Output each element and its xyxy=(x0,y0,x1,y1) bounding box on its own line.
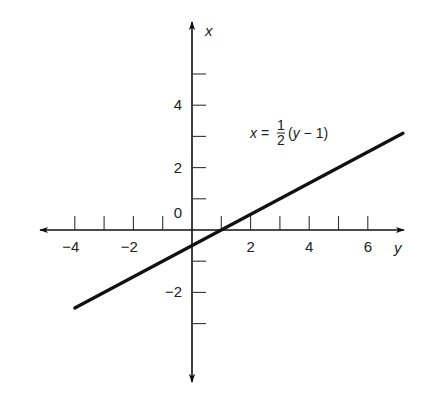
horizontal-tick-label: 4 xyxy=(305,238,313,255)
vertical-tick-label: 4 xyxy=(174,96,182,113)
equation-fraction-numerator: 1 xyxy=(277,117,285,133)
horizontal-tick-label: −4 xyxy=(62,238,79,255)
series-line xyxy=(75,133,403,308)
horizontal-tick-label: −2 xyxy=(121,238,138,255)
axes xyxy=(40,22,404,382)
horizontal-tick-label: 2 xyxy=(246,238,254,255)
equation-annotation: x = 1 2 (y − 1) xyxy=(249,117,328,148)
horizontal-axis-label: y xyxy=(393,239,403,256)
vertical-axis-label: x xyxy=(204,22,213,39)
equation-prefix: x = xyxy=(249,125,269,141)
series xyxy=(75,133,403,308)
vertical-tick-label: 2 xyxy=(174,159,182,176)
horizontal-tick-label: 6 xyxy=(364,238,372,255)
equation-suffix: (y − 1) xyxy=(288,125,328,141)
vertical-tick-label: 0 xyxy=(174,204,182,221)
vertical-tick-label: −2 xyxy=(165,283,182,300)
equation-fraction-denominator: 2 xyxy=(277,132,285,148)
chart: −4−2246420−2 y x x = 1 2 (y − 1) xyxy=(0,0,429,406)
